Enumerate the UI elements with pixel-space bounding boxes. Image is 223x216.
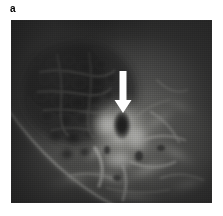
vignette-bottom xyxy=(11,20,212,203)
radiograph-canvas xyxy=(11,20,212,203)
radiograph-image xyxy=(11,20,212,203)
figure-panel: a xyxy=(0,0,223,216)
panel-label: a xyxy=(10,3,16,15)
